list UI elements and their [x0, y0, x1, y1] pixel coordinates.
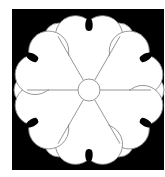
crest-canvas: Six-petal flower crest — [0, 0, 165, 177]
flower-crest-graphic — [0, 0, 165, 177]
center-circle-icon — [78, 79, 100, 101]
